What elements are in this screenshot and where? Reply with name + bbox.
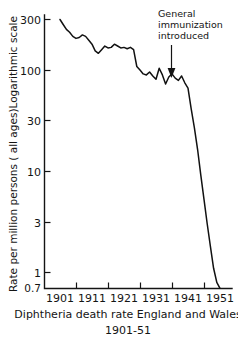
y-tick-label-1: 1 <box>34 267 41 280</box>
y-tick-label-3: 3 <box>34 217 41 230</box>
x-tick-label-1931: 1931 <box>142 292 170 305</box>
y-tick-label-300: 300 <box>20 14 41 27</box>
y-axis-ticks <box>45 20 51 273</box>
y-tick-label-10: 10 <box>27 166 41 179</box>
caption-line-2: 1901-51 <box>105 324 151 337</box>
data-series-line <box>60 20 220 289</box>
annotation-line-2: immunization <box>158 19 223 30</box>
annotation-line-3: introduced <box>158 30 209 41</box>
x-tick-label-1911: 1911 <box>78 292 106 305</box>
annotation-arrow <box>168 45 176 78</box>
x-tick-label-1951: 1951 <box>206 292 234 305</box>
chart-svg: 300 100 30 10 3 1 0.7 Rate per million p… <box>0 0 238 340</box>
x-tick-label-1901: 1901 <box>46 292 74 305</box>
y-axis-title: Rate per million persons ( all ages)Loga… <box>7 16 19 292</box>
x-tick-label-1941: 1941 <box>174 292 202 305</box>
x-axis-tick-labels: 1901 1911 1921 1931 1941 1951 <box>46 292 234 305</box>
chart-figure: 300 100 30 10 3 1 0.7 Rate per million p… <box>0 0 238 340</box>
caption-line-1: Diphtheria death rate England and Wales <box>14 308 238 321</box>
y-axis-tick-labels: 300 100 30 10 3 1 0.7 <box>20 14 41 294</box>
x-axis-ticks <box>77 283 205 289</box>
y-tick-label-0point7: 0.7 <box>24 282 41 294</box>
annotation-line-1: General <box>158 8 195 19</box>
y-tick-label-30: 30 <box>27 115 41 128</box>
axis-spines <box>45 15 233 289</box>
annotation-text: General immunization introduced <box>158 8 223 41</box>
y-tick-label-100: 100 <box>20 65 41 78</box>
x-tick-label-1921: 1921 <box>110 292 138 305</box>
